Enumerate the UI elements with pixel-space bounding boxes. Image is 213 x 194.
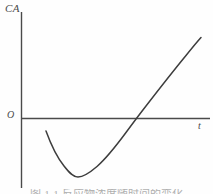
concentration-curve [46,38,201,178]
x-axis-label: t [198,121,201,131]
y-axis-label: CA [5,3,20,14]
origin-label: O [7,110,14,120]
figure-caption: 图 1-1 反应物浓度随时间的变化 [0,189,213,194]
plot-canvas [0,0,213,194]
figure-container: CA O t 图 1-1 反应物浓度随时间的变化 [0,0,213,194]
